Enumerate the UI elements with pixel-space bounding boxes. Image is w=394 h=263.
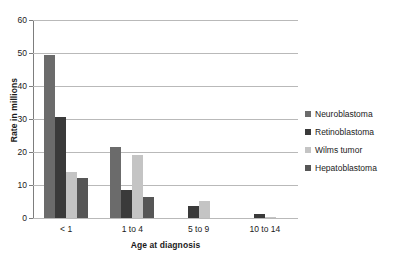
legend-swatch-icon — [305, 147, 311, 153]
bar — [77, 178, 88, 218]
legend-item-neuroblastoma[interactable]: Neuroblastoma — [305, 105, 377, 123]
bar — [66, 172, 77, 218]
chart-legend: NeuroblastomaRetinoblastomaWilms tumorHe… — [305, 105, 377, 177]
x-axis-title: Age at diagnosis — [33, 240, 298, 250]
bar — [44, 55, 55, 218]
bar — [55, 117, 66, 218]
legend-item-wilms-tumor[interactable]: Wilms tumor — [305, 141, 377, 159]
bar — [188, 206, 199, 218]
bar — [121, 190, 132, 218]
legend-label: Wilms tumor — [315, 146, 362, 155]
bar — [199, 201, 210, 218]
bar — [265, 217, 276, 218]
gridline — [33, 218, 298, 219]
y-axis-tick-label: 20 — [18, 147, 27, 157]
x-axis-category-label: 1 to 4 — [122, 224, 143, 234]
bar — [143, 197, 154, 218]
legend-label: Hepatoblastoma — [315, 164, 377, 173]
legend-swatch-icon — [305, 111, 311, 117]
x-axis-category-label: 5 to 9 — [188, 224, 209, 234]
plot-area: 0102030405060 — [33, 20, 298, 218]
y-axis-tick-label: 60 — [18, 15, 27, 25]
legend-swatch-icon — [305, 129, 311, 135]
bar — [110, 147, 121, 218]
bar — [254, 214, 265, 218]
y-axis-tick-label: 30 — [18, 114, 27, 124]
legend-label: Retinoblastoma — [315, 128, 374, 137]
y-axis-tick-label: 10 — [18, 180, 27, 190]
bars-layer — [33, 20, 298, 218]
y-axis-tick — [29, 218, 33, 219]
y-axis-tick-label: 50 — [18, 48, 27, 58]
legend-item-hepatoblastoma[interactable]: Hepatoblastoma — [305, 159, 377, 177]
bar — [132, 155, 143, 218]
legend-swatch-icon — [305, 165, 311, 171]
legend-label: Neuroblastoma — [315, 110, 373, 119]
y-axis-tick-label: 40 — [18, 81, 27, 91]
bar-chart: Rate in millions 0102030405060 < 11 to 4… — [0, 0, 394, 263]
legend-item-retinoblastoma[interactable]: Retinoblastoma — [305, 123, 377, 141]
y-axis-tick-label: 0 — [22, 213, 27, 223]
x-axis-category-label: < 1 — [60, 224, 72, 234]
x-axis-category-label: 10 to 14 — [250, 224, 281, 234]
